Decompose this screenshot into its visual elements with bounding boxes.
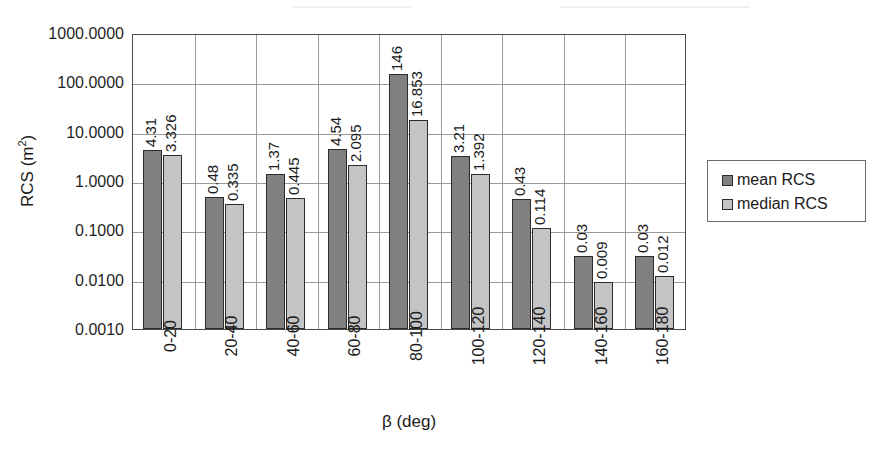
scan-artifact (560, 6, 750, 8)
bar-value-label: 1.392 (471, 133, 486, 171)
bar-group: 4.313.326 (133, 35, 195, 329)
bar-value-label: 0.43 (512, 167, 527, 196)
x-axis-tick-label-text: 40-60 (286, 316, 302, 357)
bar-value-label: 3.326 (163, 115, 178, 153)
x-axis-tick-label-text: 100-120 (471, 307, 487, 366)
x-axis-tick-label: 120-140 (501, 332, 563, 410)
bar-value-label: 2.095 (348, 125, 363, 163)
bar-median-rcs: 0.335 (225, 204, 244, 329)
bar-group: 1.370.445 (256, 35, 318, 329)
bar-mean-rcs: 1.37 (266, 174, 285, 329)
bar-value-label: 146 (389, 46, 404, 71)
x-axis-tick-label: 100-120 (440, 332, 502, 410)
x-axis-tick-label: 20-40 (194, 332, 256, 410)
y-axis-tick-label: 0.0010 (4, 322, 124, 338)
x-axis-tick-label-text: 140-160 (594, 307, 610, 366)
y-axis-title-close: ) (18, 135, 37, 141)
y-axis-title-exponent: 2 (16, 140, 28, 146)
bar-group: 0.030.009 (564, 35, 626, 329)
bar-value-label: 0.335 (225, 164, 240, 202)
x-axis-tick-label-text: 60-80 (347, 316, 363, 357)
bar-group: 0.480.335 (195, 35, 257, 329)
x-axis-tick-label: 80-100 (378, 332, 440, 410)
bar-value-label: 0.012 (655, 235, 670, 273)
scan-artifact (292, 6, 412, 8)
bar-value-label: 0.114 (532, 188, 547, 224)
bar-value-label: 4.31 (143, 118, 158, 147)
x-axis-tick-label-text: 80-100 (409, 311, 425, 361)
x-axis-tick-label: 40-60 (255, 332, 317, 410)
x-axis-tick-label: 160-180 (624, 332, 686, 410)
bar-group: 4.542.095 (318, 35, 380, 329)
bar-mean-rcs: 3.21 (451, 156, 470, 329)
bar-median-rcs: 3.326 (163, 155, 182, 329)
bar-mean-rcs: 0.48 (205, 197, 224, 329)
bar-group: 0.030.012 (625, 35, 687, 329)
bar-group: 14616.853 (379, 35, 441, 329)
x-axis-tick-label-text: 160-180 (655, 307, 671, 366)
bar-value-label: 4.54 (328, 116, 343, 145)
bar-mean-rcs: 4.31 (143, 150, 162, 329)
bar-value-label: 0.445 (286, 158, 301, 196)
y-axis-tick-label: 1000.0000 (4, 26, 124, 42)
x-axis-tick-label: 0-20 (132, 332, 194, 410)
y-axis-tick-label: 100.0000 (4, 75, 124, 91)
legend-swatch-median-rcs (722, 199, 733, 210)
bar-group: 0.430.114 (502, 35, 564, 329)
bar-mean-rcs: 0.43 (512, 199, 531, 329)
y-axis-title: RCS (m2) (16, 111, 38, 231)
bar-value-label: 0.48 (205, 165, 220, 194)
legend-item[interactable]: mean RCS (722, 168, 865, 192)
bar-value-label: 16.853 (409, 72, 424, 118)
x-axis-tick-label-text: 20-40 (224, 316, 240, 357)
legend-item[interactable]: median RCS (722, 192, 865, 216)
chart-legend: mean RCSmedian RCS (707, 160, 866, 222)
x-axis-tick-labels: 0-2020-4040-6060-8080-100100-120120-1401… (132, 332, 686, 410)
legend-item-label: mean RCS (737, 172, 815, 188)
plot-area: 4.313.3260.480.3351.370.4454.542.0951461… (132, 34, 686, 330)
bar-group: 3.211.392 (441, 35, 503, 329)
y-axis-title-text: RCS (m (18, 147, 37, 207)
bar-median-rcs: 2.095 (348, 165, 367, 329)
legend-item-label: median RCS (737, 196, 828, 212)
bar-median-rcs: 0.445 (286, 198, 305, 329)
bar-mean-rcs: 146 (389, 74, 408, 329)
x-axis-tick-label: 60-80 (317, 332, 379, 410)
bar-value-label: 1.37 (266, 142, 281, 171)
rcs-bar-chart: 1000.0000100.000010.00001.00000.10000.01… (0, 0, 888, 460)
bar-mean-rcs: 4.54 (328, 149, 347, 329)
bar-value-label: 0.009 (594, 241, 609, 279)
y-axis-tick-label: 0.0100 (4, 273, 124, 289)
x-axis-tick-label: 140-160 (563, 332, 625, 410)
x-axis-tick-label-text: 0-20 (163, 320, 179, 352)
bar-mean-rcs: 0.03 (635, 256, 654, 329)
bar-median-rcs: 16.853 (409, 120, 428, 329)
x-axis-title: β (deg) (132, 412, 686, 432)
x-axis-tick-label-text: 120-140 (532, 307, 548, 366)
legend-swatch-mean-rcs (722, 175, 733, 186)
bar-value-label: 0.03 (574, 224, 589, 253)
bar-value-label: 3.21 (451, 124, 466, 153)
bar-mean-rcs: 0.03 (574, 256, 593, 329)
bar-value-label: 0.03 (635, 224, 650, 253)
